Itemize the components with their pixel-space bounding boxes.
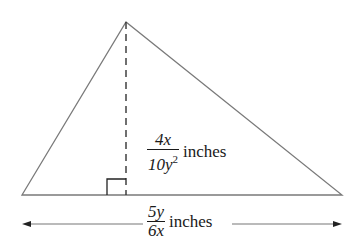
right-angle-marker: [107, 179, 126, 195]
base-denominator: 6x: [147, 222, 165, 240]
arrowhead-left-icon: [22, 221, 31, 227]
base-label: 5y 6x inches: [143, 203, 216, 240]
base-unit: inches: [169, 212, 212, 232]
height-fraction: 4x 10y2: [147, 131, 179, 174]
base-fraction: 5y 6x: [147, 203, 165, 240]
height-denominator: 10y2: [147, 150, 179, 174]
base-numerator: 5y: [147, 203, 165, 222]
height-unit: inches: [183, 142, 226, 162]
height-numerator: 4x: [147, 131, 179, 150]
arrowhead-right-icon: [333, 221, 342, 227]
height-label: 4x 10y2 inches: [147, 131, 226, 174]
